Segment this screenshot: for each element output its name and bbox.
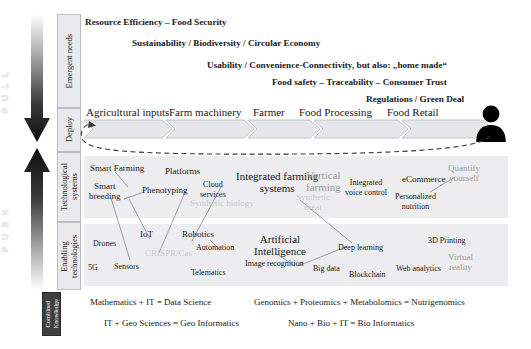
enabling-term-deep-learning: Deep learning <box>338 243 383 253</box>
enabling-term-3d-printing: 3D Printing <box>428 236 466 246</box>
enabling-term-artificial-intelligence: Artificial Intelligence <box>254 233 306 257</box>
tech-term-phenotyping: Phenotyping <box>142 185 188 195</box>
tech-term-synthetic-meat: Synthetic meat <box>296 192 330 212</box>
tech-term-ecommerce: eCommerce <box>402 174 445 184</box>
combined-knowledge-label: Combined Knowledge <box>44 299 59 328</box>
knowledge-equation-0: Mathematics + IT = Data Science <box>90 297 211 307</box>
knowledge-equation-3: Nano + Bio + IT = Bio Informatics <box>288 318 414 328</box>
tech-term-personalized-nutrition: Personalized nutrition <box>395 192 436 212</box>
enabling-term-iot: IoT <box>140 229 153 239</box>
enabling-term-web-analytics: Web analytics <box>396 264 441 274</box>
enabling-term-virtual-reality: Virtual reality <box>448 252 473 272</box>
enabling-term-telematics: Telematics <box>191 268 226 278</box>
enabling-term-robotics: Robotics <box>182 229 214 239</box>
tech-term-smart-farming: Smart Farming <box>90 163 144 173</box>
tech-term-smart-breeding: Smart breeding <box>89 181 121 201</box>
tech-term-integrated-voice-control: Integrated voice control <box>345 178 387 198</box>
tech-term-vertical-farming: Vertical farming <box>306 169 341 193</box>
tech-term-synthetic-biology: Synthetic biology <box>190 198 254 208</box>
enabling-term-blockchain: Blockchain <box>349 270 385 280</box>
tech-term-platforms: Platforms <box>165 166 200 176</box>
combined-knowledge-box: Combined Knowledge <box>42 292 61 336</box>
tech-term-cloud-services: Cloud services <box>200 180 226 200</box>
enabling-term-sensors: Sensors <box>114 262 139 272</box>
knowledge-equation-2: IT + Geo Sciences = Geo Informatics <box>104 318 239 328</box>
enabling-term-big-data: Big data <box>313 264 340 274</box>
enabling-term-drones: Drones <box>93 239 116 249</box>
enabling-term-crispr-cas: CRISPR/Cas <box>145 248 192 258</box>
tech-term-quantify-yourself: Quantify yourself <box>448 163 480 183</box>
diagram-canvas: P U L L P U S H Emergent needs Deploy Te… <box>0 0 531 349</box>
enabling-term-5g: 5G <box>88 263 98 273</box>
knowledge-equation-1: Genomics + Proteomics + Metabolomics = N… <box>254 297 465 307</box>
enabling-term-automation: Automation <box>196 243 234 253</box>
enabling-term-image-recognition: Image recognition <box>245 259 303 269</box>
